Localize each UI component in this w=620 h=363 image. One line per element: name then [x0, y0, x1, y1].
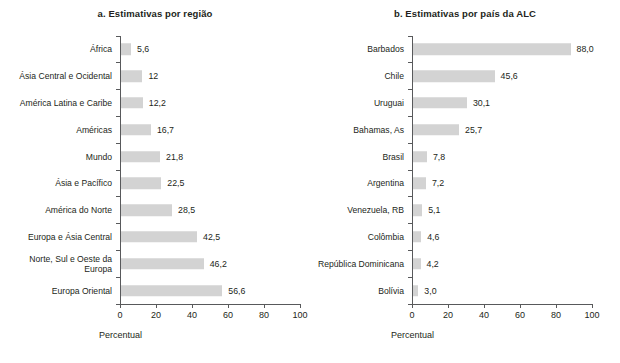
- bar: [121, 204, 172, 216]
- category-label: Bolívia: [254, 285, 404, 296]
- category-tick: [116, 170, 121, 171]
- bar-value-label: 28,5: [178, 205, 195, 215]
- x-axis-tick: [192, 304, 193, 308]
- category-label: Europa e Ásia Central: [0, 232, 112, 243]
- category-tick: [408, 143, 413, 144]
- x-axis-tick: [556, 304, 557, 308]
- x-axis-tick-label: 60: [515, 310, 525, 320]
- bar: [413, 124, 459, 136]
- bar: [413, 151, 427, 163]
- bar: [413, 285, 418, 297]
- bar: [121, 44, 131, 56]
- x-axis-tick: [300, 304, 301, 308]
- x-axis-tick: [592, 304, 593, 308]
- x-axis-tick-label: 40: [479, 310, 489, 320]
- bar-value-label: 22,5: [167, 178, 184, 188]
- bar-value-label: 5,6: [137, 44, 149, 54]
- bar-value-label: 56,6: [228, 286, 245, 296]
- category-tick: [116, 62, 121, 63]
- category-tick: [408, 170, 413, 171]
- bar-value-label: 12: [148, 71, 158, 81]
- bar-value-label: 5,1: [428, 205, 440, 215]
- category-label: Américas: [0, 125, 112, 136]
- x-axis-tick-label: 20: [443, 310, 453, 320]
- x-axis-tick-label: 80: [259, 310, 269, 320]
- bar-value-label: 3,0: [424, 286, 436, 296]
- x-axis-tick: [156, 304, 157, 308]
- category-label: Chile: [254, 71, 404, 82]
- chart-b-title: b. Estimativas por país da ALC: [310, 8, 620, 19]
- x-axis-tick: [264, 304, 265, 308]
- chart-panel-b: b. Estimativas por país da ALC Barbados8…: [310, 0, 620, 363]
- bar-value-label: 16,7: [157, 125, 174, 135]
- bar: [121, 258, 204, 270]
- bar-value-label: 46,2: [210, 259, 227, 269]
- category-tick: [408, 223, 413, 224]
- bar-value-label: 42,5: [203, 232, 220, 242]
- category-label: Barbados: [254, 44, 404, 55]
- category-tick: [408, 116, 413, 117]
- bar-value-label: 4,2: [427, 259, 439, 269]
- bar-value-label: 25,7: [465, 125, 482, 135]
- x-axis-tick-label: 0: [117, 310, 122, 320]
- bar-value-label: 88,0: [577, 44, 594, 54]
- bar-value-label: 45,6: [501, 71, 518, 81]
- category-label: Brasil: [254, 151, 404, 162]
- category-tick: [408, 89, 413, 90]
- category-tick: [116, 143, 121, 144]
- bar: [121, 151, 160, 163]
- bar: [121, 178, 161, 190]
- category-tick: [116, 116, 121, 117]
- bar-row: Bolívia3,0: [413, 277, 592, 304]
- x-axis-tick-label: 40: [187, 310, 197, 320]
- chart-b-x-axis-line: 020406080100: [412, 304, 592, 305]
- chart-a-x-axis-title: Percentual: [31, 330, 210, 340]
- x-axis-tick-label: 100: [292, 310, 307, 320]
- chart-a-x-axis-line: 020406080100: [120, 304, 300, 305]
- bar-value-label: 7,2: [432, 178, 444, 188]
- x-axis-tick-label: 80: [551, 310, 561, 320]
- x-axis-tick-label: 0: [409, 310, 414, 320]
- category-tick: [408, 277, 413, 278]
- category-tick: [408, 62, 413, 63]
- category-label: Colômbia: [254, 232, 404, 243]
- bar-row: Barbados88,0: [413, 36, 592, 63]
- x-axis-tick-label: 100: [584, 310, 599, 320]
- x-axis-tick-label: 20: [151, 310, 161, 320]
- bar: [413, 97, 467, 109]
- bar-row: Argentina7,2: [413, 170, 592, 197]
- bar: [413, 231, 421, 243]
- bar: [413, 204, 422, 216]
- bar-row: Brasil7,8: [413, 143, 592, 170]
- chart-b-plot-area: Barbados88,0Chile45,6Uruguai30,1Bahamas,…: [413, 36, 592, 304]
- category-tick: [408, 196, 413, 197]
- category-label: América do Norte: [0, 205, 112, 216]
- category-label: Venezuela, RB: [254, 205, 404, 216]
- bar-value-label: 21,8: [166, 152, 183, 162]
- category-label: Ásia e Pacífico: [0, 178, 112, 189]
- category-tick: [116, 277, 121, 278]
- bar: [121, 285, 222, 297]
- category-tick: [408, 250, 413, 251]
- category-tick: [116, 89, 121, 90]
- bar: [413, 258, 421, 270]
- category-label: Ásia Central e Ocidental: [0, 71, 112, 82]
- chart-a-title: a. Estimativas por região: [0, 8, 310, 19]
- bar-row: Venezuela, RB5,1: [413, 197, 592, 224]
- category-label: América Latina e Caribe: [0, 98, 112, 109]
- bar-value-label: 30,1: [473, 98, 490, 108]
- bar-row: Bahamas, As25,7: [413, 116, 592, 143]
- category-tick: [408, 36, 413, 37]
- x-axis-tick: [120, 304, 121, 308]
- chart-b-bars: Barbados88,0Chile45,6Uruguai30,1Bahamas,…: [413, 36, 592, 304]
- category-label: República Dominicana: [254, 259, 404, 270]
- bar: [121, 124, 151, 136]
- category-label: Uruguai: [254, 98, 404, 109]
- category-tick: [116, 223, 121, 224]
- category-tick: [116, 196, 121, 197]
- bar: [413, 44, 571, 56]
- chart-b-x-axis-title: Percentual: [323, 330, 502, 340]
- figure: a. Estimativas por região África5,6Ásia …: [0, 0, 620, 363]
- bar-row: Uruguai30,1: [413, 90, 592, 117]
- x-axis-tick-label: 60: [223, 310, 233, 320]
